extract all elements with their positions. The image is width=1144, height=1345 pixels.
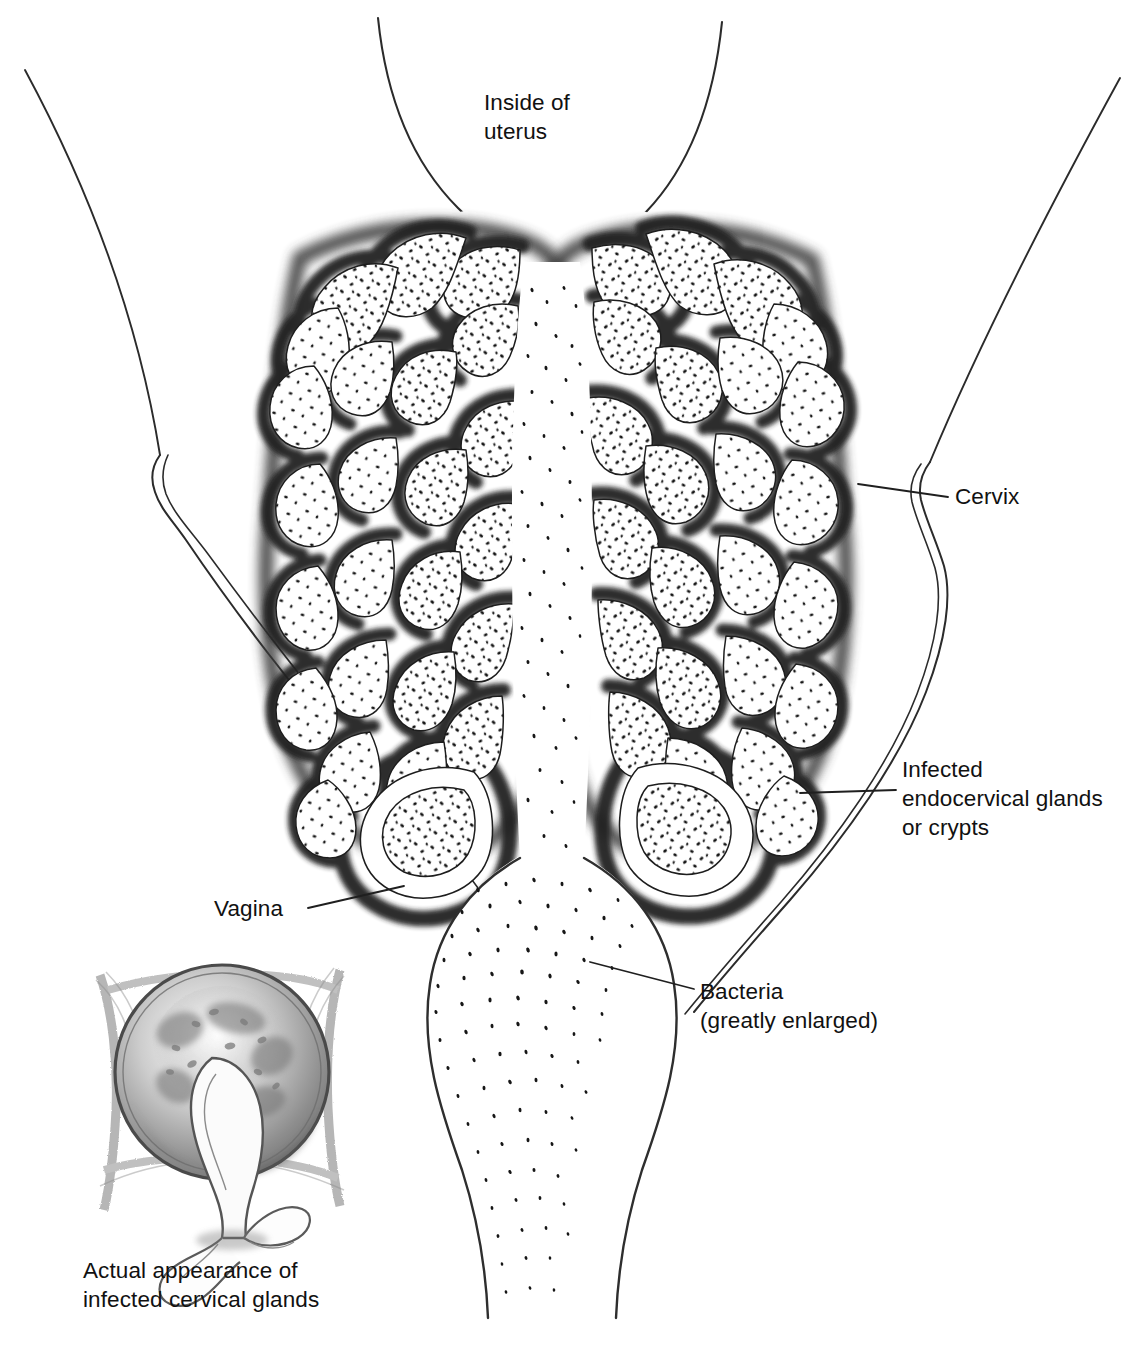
label-inside-of-uterus: Inside of uterus <box>484 88 570 146</box>
endocervical-glands-left <box>263 226 526 919</box>
label-vagina: Vagina <box>214 894 283 923</box>
label-cervix: Cervix <box>955 482 1019 511</box>
cervix-infection-figure: Inside of uterus Cervix Infected endocer… <box>0 0 1144 1345</box>
label-infected-endocervical-glands: Infected endocervical glands or crypts <box>902 755 1103 842</box>
label-bacteria: Bacteria (greatly enlarged) <box>700 977 878 1035</box>
endocervical-glands-right <box>586 222 851 916</box>
figure-artwork <box>0 0 1144 1345</box>
caption-actual-appearance: Actual appearance of infected cervical g… <box>83 1256 319 1314</box>
